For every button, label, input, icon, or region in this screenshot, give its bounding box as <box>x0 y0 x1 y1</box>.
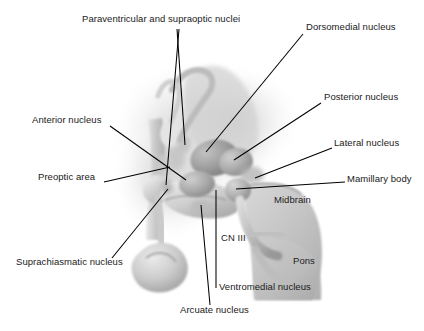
ventricle-recess <box>160 122 176 146</box>
pituitary-gland <box>132 243 188 293</box>
label-cn-iii: CN III <box>221 232 246 243</box>
lateral-nucleus-mass <box>240 166 264 184</box>
label-lateral-nucleus: Lateral nucleus <box>334 137 399 148</box>
label-posterior-nucleus: Posterior nucleus <box>324 91 398 102</box>
suprachiasmatic-nucleus-mass <box>161 182 173 194</box>
anatomy-illustration <box>0 0 424 331</box>
label-dorsomedial-nucleus: Dorsomedial nucleus <box>306 21 396 32</box>
label-preoptic-area: Preoptic area <box>38 171 95 182</box>
label-arcuate-nucleus: Arcuate nucleus <box>180 304 249 315</box>
label-mamillary-body: Mamillary body <box>347 173 412 184</box>
hypothalamus-diagram-figure: Paraventricular and supraoptic nuclei Do… <box>0 0 424 331</box>
preoptic-area-mass <box>156 154 172 178</box>
label-ventromedial-nucleus: Ventromedial nucleus <box>219 281 311 292</box>
label-midbrain: Midbrain <box>274 194 311 205</box>
cn3-branch <box>252 233 284 236</box>
label-pons: Pons <box>293 255 315 266</box>
label-paraventricular-and-supraoptic-nuclei: Paraventricular and supraoptic nuclei <box>82 13 240 24</box>
label-suprachiasmatic-nucleus: Suprachiasmatic nucleus <box>16 256 123 267</box>
label-anterior-nucleus: Anterior nucleus <box>32 114 101 125</box>
